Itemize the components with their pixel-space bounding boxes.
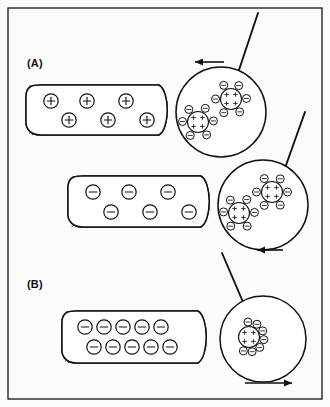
panel-label-panel-a: (A) [27,57,43,69]
cluster-a-neg-lower-core-circle [229,203,250,224]
cluster-b-neg-core-circle [239,327,260,348]
capsule-b-negative-outline-top [62,311,206,363]
cluster-a-neg-upper-core-circle [262,182,283,203]
cluster-a-pos-lower-core-circle [188,112,209,133]
diagram-canvas: (A)(B) [0,0,330,407]
cluster-a-pos-upper-core-circle [221,89,242,110]
figure-root: (A)(B) [0,0,330,407]
panel-label-panel-b: (B) [27,278,43,290]
